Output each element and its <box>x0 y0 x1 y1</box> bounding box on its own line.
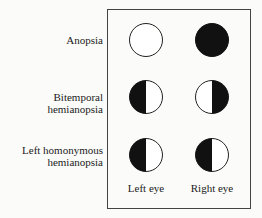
right-eye-homonymous-icon <box>196 139 229 172</box>
right-eye-anopsia-icon <box>196 24 229 57</box>
left-eye-anopsia-icon <box>130 24 163 57</box>
column-label-left-eye: Left eye <box>116 182 176 194</box>
column-label-right-eye: Right eye <box>182 182 242 194</box>
left-eye-homonymous-icon <box>130 139 163 172</box>
right-eye-bitemporal-icon <box>196 81 229 114</box>
left-eye-bitemporal-icon <box>130 81 163 114</box>
